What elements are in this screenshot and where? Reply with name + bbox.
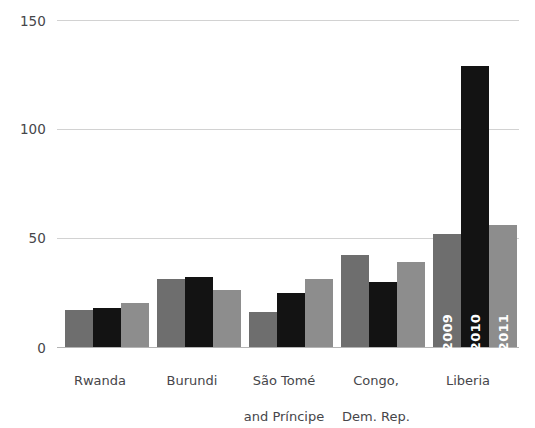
bar-sao-tome-2009 (249, 312, 277, 347)
bar-rwanda-2009 (65, 310, 93, 347)
gridline-100 (57, 129, 519, 130)
series-label-2011: 2011 (497, 314, 510, 351)
x-axis-label-liberia: Liberia (413, 354, 523, 408)
bar-burundi-2009 (157, 279, 185, 347)
bar-rwanda-2010 (93, 308, 121, 347)
plot-area: 2009 2010 2011 (57, 20, 519, 347)
bar-liberia-2011: 2011 (489, 225, 517, 347)
y-axis-tick-100: 100 (4, 121, 46, 137)
y-axis-tick-0: 0 (4, 340, 46, 356)
bar-sao-tome-2011 (305, 279, 333, 347)
y-axis-tick-150: 150 (4, 13, 46, 29)
bar-burundi-2011 (213, 290, 241, 347)
bar-congo-2011 (397, 262, 425, 347)
y-axis-tick-50: 50 (4, 230, 46, 246)
bar-rwanda-2011 (121, 303, 149, 347)
x-axis-label-congo-line2: Dem. Rep. (321, 408, 431, 426)
series-label-2009: 2009 (441, 314, 454, 351)
x-axis-label-liberia-line1: Liberia (413, 372, 523, 390)
series-label-2010: 2010 (469, 314, 482, 351)
bar-congo-2009 (341, 255, 369, 347)
bar-burundi-2010 (185, 277, 213, 347)
bar-sao-tome-2010 (277, 293, 305, 348)
gridline-150 (57, 20, 519, 21)
bar-congo-2010 (369, 282, 397, 347)
bar-liberia-2010: 2010 (461, 66, 489, 347)
bar-liberia-2009: 2009 (433, 234, 461, 347)
